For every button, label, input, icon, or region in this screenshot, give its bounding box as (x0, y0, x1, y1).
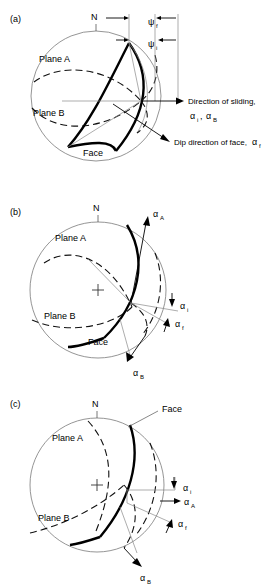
plane-a-great-circle (44, 255, 132, 307)
wedge-edge-left (68, 43, 129, 147)
panel-c: (c) N Face α i (0, 385, 279, 585)
dip-alpha-f-symbol: α (252, 137, 257, 147)
face-great-circle (100, 425, 135, 537)
plane-b-label: Plane B (33, 108, 65, 118)
alpha-B-symbol: α (140, 573, 145, 583)
face-label: Face (162, 404, 182, 414)
north-label: N (92, 399, 99, 409)
alpha-A-symbol: α (153, 209, 158, 219)
panel-b-figure: (b) N α A (0, 195, 279, 385)
stereonet-primitive-circle (31, 31, 161, 161)
plane-a-great-circle (88, 421, 109, 531)
face-leader-line (128, 411, 158, 427)
alpha-B-arrow (124, 548, 142, 567)
alpha-f-subscript: f (185, 525, 187, 531)
alpha-f-symbol: α (175, 319, 180, 329)
north-label: N (91, 12, 98, 22)
alpha-i-subscript: i (197, 117, 198, 123)
construction-arc-dashed (137, 101, 147, 133)
direction-of-sliding-text: Direction of sliding, (188, 97, 256, 106)
panel-a-label: (a) (10, 14, 21, 24)
panel-b-label: (b) (10, 207, 21, 217)
direction-of-sliding-symbols: α i , α B (190, 111, 217, 123)
psi-f-subscript: f (156, 23, 158, 29)
plane-a-label: Plane A (55, 233, 86, 243)
alpha-B-symbol: α (206, 111, 211, 121)
dip-alpha-f-subscript: f (259, 143, 261, 149)
alpha-B-subscript: B (213, 117, 217, 123)
face-lower-extension (70, 537, 100, 545)
alpha-A-arrow (131, 216, 150, 303)
alpha-f-marker (163, 318, 170, 332)
alpha-A-subscript: A (191, 503, 195, 509)
alpha-B-arrow (126, 336, 145, 362)
psi-i-subscript: i (156, 45, 157, 51)
panel-b: (b) N α A (0, 195, 279, 385)
plane-b-label: Plane B (38, 513, 70, 523)
plane-a-label: Plane A (39, 54, 70, 64)
alpha-list-separator: , (200, 111, 203, 121)
alpha-i-symbol: α (183, 483, 188, 493)
psi-f-dimension: ψ f (106, 16, 176, 29)
face-label: Face (83, 148, 103, 158)
plane-b-label: Plane B (44, 311, 76, 321)
alpha-A-symbol: α (184, 497, 189, 507)
construction-radial-down (120, 507, 137, 553)
alpha-i-subscript: i (187, 307, 188, 313)
panel-c-figure: (c) N Face α i (0, 385, 279, 585)
alpha-f-subscript: f (182, 325, 184, 331)
construction-radial-upper-left (88, 259, 131, 303)
panel-a-figure: (a) N ψ f (0, 0, 279, 195)
alpha-i-marker (171, 477, 177, 489)
dip-direction-text: Dip direction of face, (174, 138, 247, 147)
alpha-B-subscript: B (140, 374, 144, 380)
construction-radial-lower-right (127, 503, 172, 523)
alpha-i-marker (169, 293, 175, 307)
dip-direction-arrow (113, 104, 170, 142)
center-cross-mark (92, 284, 104, 296)
plane-a-great-circle (34, 70, 141, 101)
alpha-B-symbol: α (133, 368, 138, 378)
construction-radial-lower-left (68, 101, 141, 147)
construction-radial-down (120, 319, 130, 355)
alpha-B-subscript: B (147, 579, 151, 585)
center-cross-mark (91, 479, 103, 491)
alpha-A-subscript: A (160, 215, 164, 221)
alpha-f-symbol: α (178, 519, 183, 529)
face-label: Face (88, 337, 108, 347)
alpha-i-symbol: α (190, 111, 195, 121)
panel-c-label: (c) (10, 399, 21, 409)
north-label: N (93, 203, 100, 213)
psi-i-symbol: ψ (148, 39, 154, 49)
alpha-i-symbol: α (180, 301, 185, 311)
panel-a: (a) N ψ f (0, 0, 279, 195)
alpha-A-arrow (160, 498, 181, 504)
psi-f-symbol: ψ (148, 17, 154, 27)
alpha-i-subscript: i (190, 489, 191, 495)
plane-a-label: Plane A (52, 433, 83, 443)
